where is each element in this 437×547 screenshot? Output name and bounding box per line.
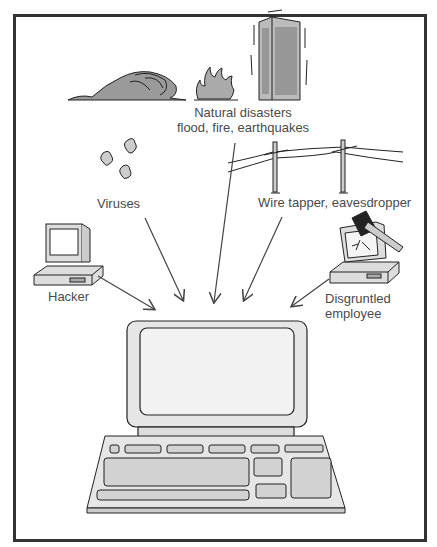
natural-disasters-subtitle: flood, fire, earthquakes (173, 120, 313, 135)
disgruntled-computer-icon (330, 211, 403, 283)
hacker-computer-icon (34, 224, 103, 285)
keyboard-icon (87, 436, 345, 513)
earthquake-building-icon (251, 10, 307, 100)
hacker-label: Hacker (48, 289, 89, 304)
virus-icon (101, 139, 137, 179)
disgruntled-line1: Disgruntled (325, 291, 391, 306)
telephone-poles-icon (228, 140, 403, 193)
main-computer-monitor-icon (127, 321, 307, 437)
natural-disasters-label: Natural disasters flood, fire, earthquak… (173, 105, 313, 135)
natural-disasters-title: Natural disasters (173, 105, 313, 120)
wiretapper-label: Wire tapper, eavesdropper (258, 195, 411, 210)
viruses-label: Viruses (97, 196, 140, 211)
disgruntled-line2: employee (325, 306, 391, 321)
disgruntled-employee-label: Disgruntled employee (325, 291, 391, 321)
threat-arrows (98, 143, 329, 309)
diagram-canvas (0, 0, 437, 547)
fire-icon (194, 67, 238, 100)
flood-wave-icon (68, 72, 186, 100)
